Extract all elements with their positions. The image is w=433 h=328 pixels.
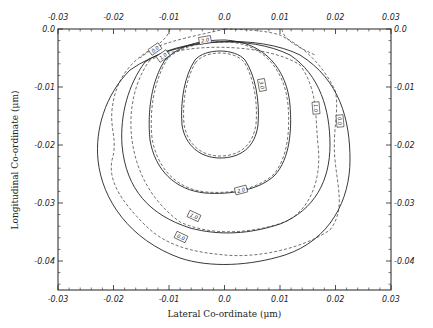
x-tick-labels-top: -0.03 -0.02 -0.01 0.0 0.01 0.02 0.03 [48, 13, 400, 22]
contour-label-0-right: 0.0 [336, 115, 344, 128]
y-tick-label: -0.02 [34, 141, 55, 150]
x-tick-label: 0.03 [382, 13, 400, 22]
x-tick-label: 0.0 [218, 295, 231, 304]
y-tick-label: -0.04 [34, 257, 55, 266]
plot-frame [58, 29, 391, 290]
x-tick-label: 0.02 [327, 13, 345, 22]
svg-text:0.0: 0.0 [337, 117, 344, 125]
y-tick-label: -0.03 [394, 199, 415, 208]
contour-1-dashed [131, 47, 319, 231]
y-tick-label: -0.01 [394, 83, 415, 92]
x-minor-ticks [69, 29, 380, 290]
x-axis-title: Lateral Co-ordinate (μm) [168, 309, 282, 319]
contour-2-dashed [151, 42, 288, 192]
y-axis-title: Longitudinal Co-ordinate (μm) [10, 91, 20, 230]
contour-3-dashed [184, 53, 257, 156]
y-tick-label: 0.0 [42, 25, 55, 34]
y-tick-label: -0.03 [34, 199, 55, 208]
y-tick-labels-right: 0.0 -0.01 -0.02 -0.03 -0.04 [394, 25, 415, 266]
y-tick-label: -0.04 [394, 257, 415, 266]
contour-2-solid [149, 40, 290, 193]
y-tick-label: -0.01 [34, 83, 55, 92]
x-tick-label: 0.03 [382, 295, 400, 304]
x-tick-label: -0.03 [48, 13, 69, 22]
contour-label-0-bottom: 0.0 [174, 231, 188, 242]
x-tick-label: -0.03 [48, 295, 69, 304]
measured-contours [111, 29, 339, 256]
contour-label-3-right: 3.0 [258, 78, 267, 91]
y-tick-label: -0.02 [394, 141, 415, 150]
x-tick-label: 0.0 [218, 13, 231, 22]
contour-0-dashed-top-right [282, 29, 315, 55]
contour-labels: 0.0 1.0 2.0 3.0 1.0 0.0 2.0 1.0 [148, 36, 344, 243]
x-tick-label: -0.02 [103, 295, 124, 304]
y-ticks [58, 29, 391, 261]
svg-text:1.0: 1.0 [313, 104, 320, 112]
y-tick-label: 0.0 [394, 25, 407, 34]
x-tick-label: 0.02 [327, 295, 345, 304]
contour-label-2-bottom: 2.0 [234, 185, 247, 195]
x-tick-label: 0.01 [271, 13, 289, 22]
x-ticks [58, 29, 391, 290]
contour-1-solid [122, 42, 330, 233]
contour-label-2-top: 2.0 [198, 36, 211, 45]
y-minor-ticks [58, 41, 391, 285]
x-tick-labels-bottom: -0.03 -0.02 -0.01 0.0 0.01 0.02 0.03 [48, 295, 400, 304]
model-contours [97, 40, 350, 264]
contour-chart: -0.03 -0.02 -0.01 0.0 0.01 0.02 0.03 -0.… [0, 0, 433, 328]
x-tick-label: 0.01 [271, 295, 289, 304]
x-tick-label: -0.01 [159, 13, 180, 22]
contour-label-1-bottom: 1.0 [187, 210, 201, 221]
contour-label-1-right: 1.0 [312, 102, 320, 115]
x-tick-label: -0.01 [159, 295, 180, 304]
contour-0-dashed [111, 29, 339, 256]
y-tick-labels-left: 0.0 -0.01 -0.02 -0.03 -0.04 [34, 25, 55, 266]
x-tick-label: -0.02 [103, 13, 124, 22]
contour-0-solid [97, 41, 350, 264]
